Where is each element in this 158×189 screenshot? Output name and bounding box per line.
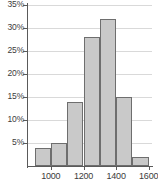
histogram-bar xyxy=(35,148,51,166)
y-tick-mark xyxy=(23,97,27,98)
x-tick-label: 1000 xyxy=(36,171,66,182)
y-tick-label: 20% xyxy=(0,69,24,78)
histogram-bar xyxy=(67,102,83,166)
y-axis-line xyxy=(27,3,28,168)
y-tick-mark xyxy=(23,5,27,6)
histogram-bar xyxy=(132,157,148,166)
histogram-chart: 5%10%15%20%25%30%35% 1000120014001600 xyxy=(0,0,158,189)
y-axis-labels: 5%10%15%20%25%30%35% xyxy=(0,0,24,189)
x-tick-mark xyxy=(116,167,117,170)
y-tick-mark xyxy=(23,143,27,144)
y-tick-label: 25% xyxy=(0,46,24,55)
x-axis-line xyxy=(27,166,153,167)
histogram-bar xyxy=(100,19,116,166)
y-tick-mark xyxy=(23,74,27,75)
histogram-bar xyxy=(116,97,132,166)
x-tick-label: 1600 xyxy=(134,171,158,182)
y-tick-mark xyxy=(23,51,27,52)
x-tick-mark xyxy=(149,167,150,170)
y-tick-mark xyxy=(23,28,27,29)
histogram-bar xyxy=(51,143,67,166)
y-tick-label: 35% xyxy=(0,0,24,9)
x-tick-mark xyxy=(51,167,52,170)
x-tick-label: 1200 xyxy=(69,171,99,182)
x-tick-mark xyxy=(84,167,85,170)
x-tick-label: 1400 xyxy=(101,171,131,182)
y-tick-label: 30% xyxy=(0,23,24,32)
y-tick-label: 10% xyxy=(0,115,24,124)
bars-layer xyxy=(28,5,152,166)
histogram-bar xyxy=(84,37,100,166)
y-tick-mark xyxy=(23,120,27,121)
y-tick-label: 5% xyxy=(0,138,24,147)
y-tick-label: 15% xyxy=(0,92,24,101)
